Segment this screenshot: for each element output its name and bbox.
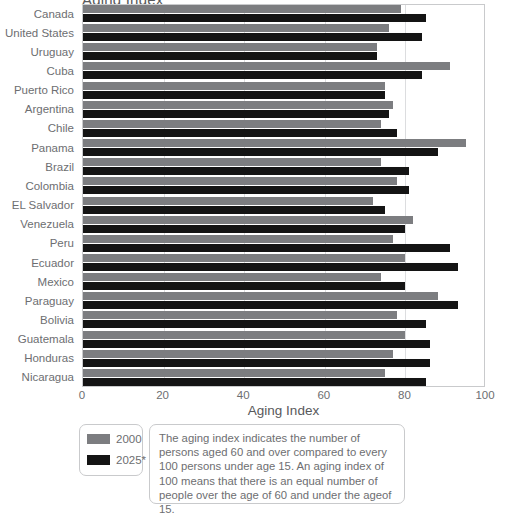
bar-row xyxy=(83,177,484,196)
legend-item-2000[interactable]: 2000 xyxy=(87,433,142,445)
bar-row xyxy=(83,254,484,273)
category-label-colombia: Colombia xyxy=(25,180,74,192)
chart-legend: 20002025* xyxy=(79,424,143,476)
chart-plot-area xyxy=(82,4,485,387)
bar-2000-puerto-rico xyxy=(83,82,385,90)
bar-row xyxy=(83,369,484,387)
category-label-honduras: Honduras xyxy=(24,352,74,364)
bar-row xyxy=(83,5,484,24)
bar-row xyxy=(83,139,484,158)
bar-row xyxy=(83,82,484,101)
y-axis-category-labels: CanadaUnited StatesUruguayCubaPuerto Ric… xyxy=(0,4,78,387)
legend-swatch-icon xyxy=(87,455,110,465)
bar-2025-brazil xyxy=(83,167,409,175)
category-label-paraguay: Paraguay xyxy=(25,295,74,307)
category-label-mexico: Mexico xyxy=(38,276,74,288)
bar-rows xyxy=(83,5,484,386)
bar-row xyxy=(83,216,484,235)
bar-2000-colombia xyxy=(83,177,397,185)
bar-2025-panama xyxy=(83,148,438,156)
bar-row xyxy=(83,292,484,311)
bar-2025-guatemala xyxy=(83,340,430,348)
bar-2025-peru xyxy=(83,244,450,252)
category-label-peru: Peru xyxy=(50,237,74,249)
bar-2000-argentina xyxy=(83,101,393,109)
category-label-canada: Canada xyxy=(34,8,74,20)
bar-2025-el-salvador xyxy=(83,206,385,214)
bar-row xyxy=(83,158,484,177)
category-label-panama: Panama xyxy=(31,142,74,154)
bar-2000-paraguay xyxy=(83,292,438,300)
bar-row xyxy=(83,62,484,81)
bar-row xyxy=(83,24,484,43)
bar-2000-canada xyxy=(83,5,401,13)
category-label-ecuador: Ecuador xyxy=(31,257,74,269)
bar-2000-peru xyxy=(83,235,393,243)
bar-2025-bolivia xyxy=(83,320,426,328)
bar-row xyxy=(83,101,484,120)
category-label-el-salvador: EL Salvador xyxy=(12,199,74,211)
bar-2000-chile xyxy=(83,120,381,128)
x-tick-label-100: 100 xyxy=(475,389,494,401)
bar-2025-uruguay xyxy=(83,52,377,60)
legend-label: 2025* xyxy=(116,454,146,466)
note-text: The aging index indicates the number of … xyxy=(159,431,395,516)
bar-row xyxy=(83,311,484,330)
bar-2000-uruguay xyxy=(83,43,377,51)
bar-2000-nicaragua xyxy=(83,369,385,377)
bar-2000-guatemala xyxy=(83,331,405,339)
category-label-brazil: Brazil xyxy=(45,161,74,173)
bar-2025-cuba xyxy=(83,71,422,79)
bar-2025-colombia xyxy=(83,186,409,194)
x-axis-label: Aging Index xyxy=(82,403,485,418)
x-tick-label-40: 40 xyxy=(237,389,250,401)
x-tick-label-0: 0 xyxy=(79,389,85,401)
legend-item-2025[interactable]: 2025* xyxy=(87,454,146,466)
category-label-puerto-rico: Puerto Rico xyxy=(14,84,74,96)
category-label-venezuela: Venezuela xyxy=(20,218,74,230)
legend-swatch-icon xyxy=(87,434,110,444)
bar-2025-mexico xyxy=(83,282,405,290)
bar-2025-puerto-rico xyxy=(83,91,385,99)
bar-2025-canada xyxy=(83,14,426,22)
category-label-argentina: Argentina xyxy=(25,103,74,115)
note-box: The aging index indicates the number of … xyxy=(149,424,405,504)
bar-2025-chile xyxy=(83,129,397,137)
bar-2000-brazil xyxy=(83,158,381,166)
bar-2000-united-states xyxy=(83,24,389,32)
category-label-bolivia: Bolivia xyxy=(40,314,74,326)
bar-2000-panama xyxy=(83,139,466,147)
category-label-chile: Chile xyxy=(48,122,74,134)
bar-2000-el-salvador xyxy=(83,197,373,205)
legend-label: 2000 xyxy=(116,433,142,445)
bar-2025-paraguay xyxy=(83,301,458,309)
bar-2025-argentina xyxy=(83,110,389,118)
bar-2000-venezuela xyxy=(83,216,413,224)
category-label-nicaragua: Nicaragua xyxy=(22,371,74,383)
bar-row xyxy=(83,120,484,139)
bar-row xyxy=(83,350,484,369)
bar-row xyxy=(83,273,484,292)
bar-2025-ecuador xyxy=(83,263,458,271)
bar-row xyxy=(83,331,484,350)
category-label-united-states: United States xyxy=(5,27,74,39)
bar-2025-honduras xyxy=(83,359,430,367)
bar-2000-honduras xyxy=(83,350,393,358)
category-label-uruguay: Uruguay xyxy=(31,46,74,58)
x-tick-label-60: 60 xyxy=(317,389,330,401)
bar-2025-venezuela xyxy=(83,225,405,233)
bar-2025-united-states xyxy=(83,33,422,41)
bar-row xyxy=(83,197,484,216)
category-label-guatemala: Guatemala xyxy=(18,333,74,345)
x-tick-label-80: 80 xyxy=(398,389,411,401)
category-label-cuba: Cuba xyxy=(47,65,75,77)
bar-row xyxy=(83,235,484,254)
bar-2000-mexico xyxy=(83,273,381,281)
x-tick-label-20: 20 xyxy=(156,389,169,401)
bar-2025-nicaragua xyxy=(83,378,426,386)
bar-2000-bolivia xyxy=(83,311,397,319)
bar-2000-ecuador xyxy=(83,254,405,262)
bar-2000-cuba xyxy=(83,62,450,70)
bar-row xyxy=(83,43,484,62)
